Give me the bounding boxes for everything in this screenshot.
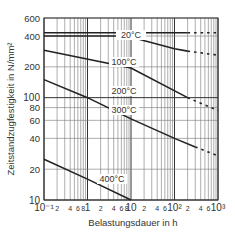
x-tick-label: 6 — [76, 205, 80, 212]
x-tick-label: 2 — [142, 205, 146, 212]
chart-svg: 102040608010020040060010⁻¹24681246810246… — [0, 0, 235, 240]
x-tick-label: 4 — [199, 205, 203, 212]
curve-label: 300°C — [111, 105, 137, 115]
y-tick-label: 600 — [24, 13, 40, 24]
x-tick-label: 4 — [155, 205, 159, 212]
series-line-solid — [44, 36, 188, 51]
x-tick-label: 10⁻¹ — [34, 202, 54, 213]
x-tick-label: 10² — [167, 202, 182, 213]
curve-label: 20°C — [121, 30, 142, 40]
x-axis-label: Belastungsdauer in h — [88, 217, 177, 228]
x-tick-label: 4 — [68, 205, 72, 212]
y-tick-label: 60 — [29, 115, 40, 126]
x-tick-label: 10³ — [211, 202, 226, 213]
x-tick-label: 2 — [99, 205, 103, 212]
x-tick-label: 2 — [186, 205, 190, 212]
y-tick-label: 400 — [24, 31, 40, 42]
curve-label: 400°C — [99, 174, 125, 184]
y-tick-label: 40 — [29, 133, 40, 144]
y-tick-label: 200 — [24, 61, 40, 72]
y-tick-label: 20 — [29, 164, 40, 175]
series-line-dashed — [188, 51, 218, 55]
y-tick-label: 100 — [23, 92, 40, 103]
x-tick-label: 1 — [85, 202, 91, 213]
creep-strength-chart: 102040608010020040060010⁻¹24681246810246… — [0, 0, 235, 240]
curve-label: 100°C — [111, 57, 137, 67]
series-line-dashed — [188, 98, 218, 111]
x-tick-label: 6 — [119, 205, 123, 212]
y-tick-label: 80 — [29, 102, 40, 113]
series-line-dashed — [195, 147, 218, 156]
x-tick-label: 10 — [125, 202, 137, 213]
y-axis-label: Zeitstandzugfestigkeit in N/mm² — [5, 42, 16, 175]
x-tick-label: 2 — [55, 205, 59, 212]
curve-label: 200°C — [111, 86, 137, 96]
x-tick-label: 4 — [112, 205, 116, 212]
